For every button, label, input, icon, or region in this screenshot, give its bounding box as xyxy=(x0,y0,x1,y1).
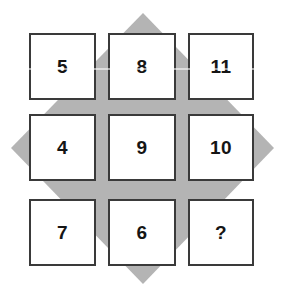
grid-cell-label: 10 xyxy=(210,138,232,157)
grid-cell-row1-col0[interactable]: 4 xyxy=(29,114,96,181)
number-grid: 5 8 11 4 9 10 7 6 ? xyxy=(0,0,286,293)
grid-cell-label: 9 xyxy=(136,138,147,157)
grid-cell-row0-col0[interactable]: 5 xyxy=(29,33,96,100)
grid-cell-label: 11 xyxy=(210,57,231,76)
grid-cell-row2-col0[interactable]: 7 xyxy=(29,199,96,266)
grid-cell-label: 7 xyxy=(57,223,68,242)
grid-cell-label: 8 xyxy=(136,57,147,76)
grid-cell-label: 4 xyxy=(57,138,68,157)
grid-cell-row0-col2[interactable]: 11 xyxy=(188,33,254,100)
grid-cell-row1-col1[interactable]: 9 xyxy=(108,114,176,181)
grid-cell-label-unknown: ? xyxy=(215,223,227,242)
puzzle-figure: 5 8 11 4 9 10 7 6 ? xyxy=(0,0,286,293)
grid-cell-row0-col1[interactable]: 8 xyxy=(108,33,176,100)
grid-cell-label: 5 xyxy=(57,57,68,76)
grid-cell-label: 6 xyxy=(136,223,147,242)
grid-cell-row2-col2-unknown[interactable]: ? xyxy=(188,199,254,266)
grid-cell-row1-col2[interactable]: 10 xyxy=(188,114,254,181)
grid-cell-row2-col1[interactable]: 6 xyxy=(108,199,176,266)
